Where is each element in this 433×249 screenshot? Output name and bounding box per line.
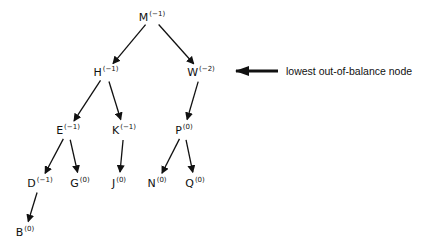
tree-node-b: B(0) bbox=[16, 225, 34, 239]
edge-k-j bbox=[120, 140, 123, 172]
edge-p-q bbox=[186, 140, 193, 172]
balance-factor: (−1) bbox=[120, 123, 136, 131]
edge-d-b bbox=[28, 193, 37, 222]
balance-factor: (0) bbox=[183, 123, 193, 131]
node-label: K bbox=[112, 124, 119, 137]
balance-factor: (−1) bbox=[149, 10, 165, 18]
node-label: E bbox=[56, 124, 63, 137]
edge-m-h bbox=[113, 25, 146, 64]
tree-node-m: M(−1) bbox=[139, 10, 165, 24]
node-label: M bbox=[139, 11, 149, 24]
tree-node-p: P(0) bbox=[175, 123, 193, 137]
tree-node-n: N(0) bbox=[147, 176, 166, 190]
tree-node-w: W(−2) bbox=[187, 65, 215, 79]
node-label: D bbox=[27, 177, 35, 190]
edge-e-g bbox=[70, 140, 77, 173]
node-label: G bbox=[70, 177, 79, 190]
tree-node-g: G(0) bbox=[70, 176, 89, 190]
balance-factor: (0) bbox=[24, 225, 34, 233]
edge-h-e bbox=[74, 80, 100, 120]
annotation-label: lowest out-of-balance node bbox=[286, 65, 412, 77]
edge-p-n bbox=[162, 139, 179, 173]
edge-w-p bbox=[187, 82, 198, 120]
balance-factor: (−2) bbox=[199, 65, 215, 73]
balance-factor: (−1) bbox=[37, 176, 53, 184]
avl-tree-diagram: M(−1)H(−1)W(−2)E(−1)K(−1)P(0)D(−1)G(0)J(… bbox=[0, 0, 433, 249]
tree-node-q: Q(0) bbox=[185, 176, 205, 190]
tree-node-h: H(−1) bbox=[93, 65, 118, 79]
tree-node-d: D(−1) bbox=[27, 176, 52, 190]
node-label: J bbox=[112, 177, 115, 190]
balance-factor: (0) bbox=[195, 176, 205, 184]
tree-node-j: J(0) bbox=[112, 176, 126, 190]
balance-factor: (0) bbox=[116, 176, 126, 184]
edge-m-w bbox=[159, 24, 194, 63]
balance-factor: (0) bbox=[80, 176, 90, 184]
edge-e-d bbox=[45, 139, 63, 173]
balance-factor: (0) bbox=[157, 176, 167, 184]
tree-node-e: E(−1) bbox=[56, 123, 80, 137]
node-label: H bbox=[93, 66, 101, 79]
node-label: B bbox=[16, 226, 24, 239]
node-label: W bbox=[187, 66, 198, 79]
tree-node-k: K(−1) bbox=[112, 123, 136, 137]
node-label: N bbox=[147, 177, 155, 190]
balance-factor: (−1) bbox=[103, 65, 119, 73]
balance-factor: (−1) bbox=[64, 123, 80, 131]
node-label: Q bbox=[185, 177, 194, 190]
edge-h-k bbox=[109, 82, 121, 120]
node-label: P bbox=[175, 124, 182, 137]
